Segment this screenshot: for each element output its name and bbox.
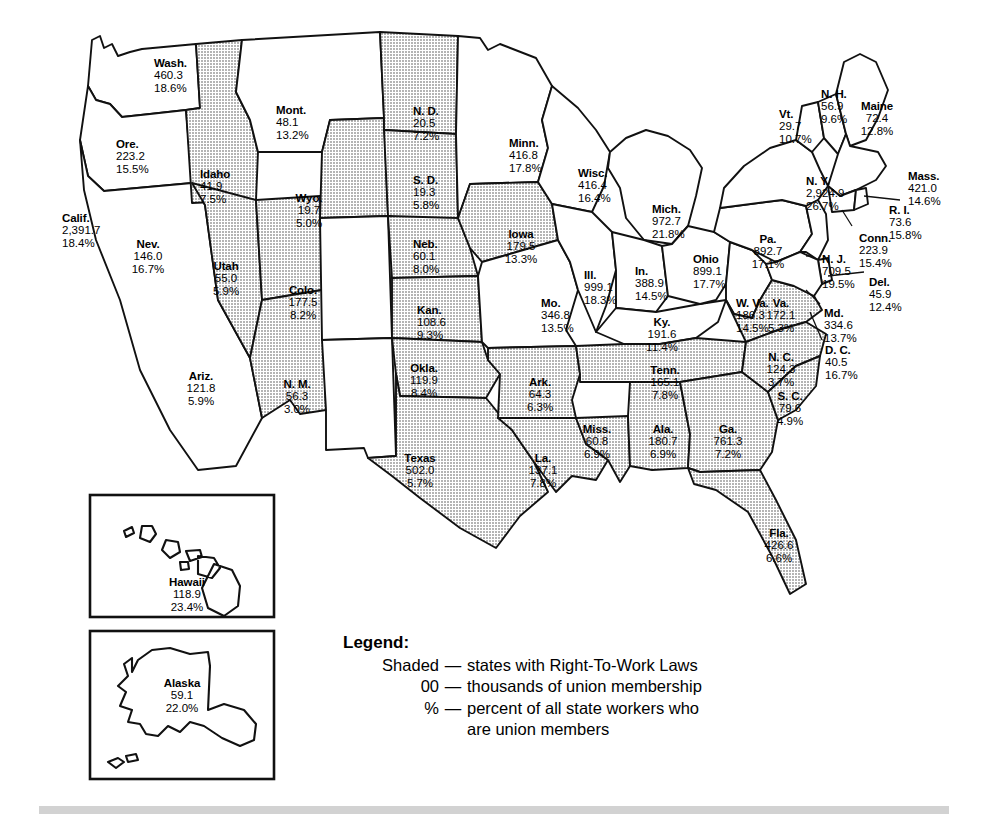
state-members-MT: 48.1 [276,116,309,128]
state-percent-DC: 16.7% [825,369,858,381]
state-label-NM: N. M.56.33.0% [284,378,311,415]
state-members-ID: 41.9 [200,180,230,192]
state-label-OH: Ohio899.117.7% [693,253,726,290]
state-members-NV: 146.0 [132,250,165,262]
state-label-TX: Texas502.05.7% [404,452,435,489]
state-percent-ID: 7.5% [200,193,230,205]
state-name-OK: Okla. [410,362,438,374]
state-percent-WA: 18.6% [154,82,187,94]
state-percent-MI: 21.8% [652,228,685,240]
state-members-TN: 165.1 [650,376,679,388]
state-name-UT: Utah [213,260,239,272]
state-name-MT: Mont. [276,104,309,116]
state-name-WV: W. Va. [736,297,769,309]
state-label-AL: Ala.180.76.9% [649,423,678,460]
state-name-MD: Md. [824,307,857,319]
state-name-DE: Del. [869,276,902,288]
state-percent-MT: 13.2% [276,129,309,141]
state-percent-SD: 5.8% [413,199,439,211]
state-name-NC: N. C. [767,351,796,363]
state-members-MN: 416.8 [509,149,542,161]
state-members-AK: 59.1 [164,689,200,701]
state-name-CA: Calif. [62,212,100,224]
state-name-WY: Wyo. [296,192,323,204]
state-members-MA: 421.0 [908,182,941,194]
state-label-CT: Conn.223.915.4% [859,232,892,269]
state-percent-DE: 12.4% [869,301,902,313]
state-name-MA: Mass. [908,170,941,182]
state-percent-NV: 16.7% [132,263,165,275]
state-label-KS: Kan.108.69.3% [417,304,446,341]
state-label-LA: La.137.17.8% [529,452,558,489]
state-shape-OK[interactable] [392,338,500,398]
legend-dash-percent: — [439,698,467,719]
state-percent-HI: 23.4% [169,601,205,613]
state-name-NV: Nev. [132,238,165,250]
state-members-MI: 972.7 [652,215,685,227]
state-name-NE: Neb. [413,238,439,250]
state-label-VT: Vt.29.710.7% [779,108,812,145]
state-label-SD: S. D.19.35.8% [413,174,439,211]
state-label-MS: Miss.60.86.9% [583,423,611,460]
state-percent-NY: 26.7% [806,200,844,212]
state-label-AK: Alaska59.122.0% [164,677,200,714]
callout-line-RI [864,196,900,200]
state-name-NJ: N. J. [822,253,855,265]
state-name-HI: Hawaii [169,576,205,588]
state-members-NJ: 709.5 [822,265,855,277]
state-members-NC: 124.3 [767,363,796,375]
state-name-ME: Maine [861,100,894,112]
state-percent-MO: 13.5% [541,322,574,334]
state-members-MO: 346.8 [541,309,574,321]
state-name-TN: Tenn. [650,364,679,376]
state-label-GA: Ga.761.37.2% [714,423,743,460]
state-percent-MN: 17.8% [509,162,542,174]
state-members-ME: 72.4 [861,112,894,124]
state-label-HI: Hawaii118.923.4% [169,576,205,613]
state-name-MS: Miss. [583,423,611,435]
state-name-MO: Mo. [541,297,574,309]
state-members-CO: 177.5 [289,296,318,308]
legend-row-thousands: 00 — thousands of union membership [343,676,763,697]
state-percent-FL: 6.6% [765,552,794,564]
state-label-CO: Colo.177.58.2% [289,284,318,321]
state-percent-AK: 22.0% [164,702,200,714]
legend-title: Legend: [343,633,763,653]
state-name-NY: N. Y. [806,175,844,187]
state-percent-GA: 7.2% [714,448,743,460]
state-percent-CT: 15.4% [859,257,892,269]
legend-dash-shaded: — [439,655,467,676]
state-shape-RI[interactable] [854,188,868,210]
state-members-MD: 334.6 [824,319,857,331]
state-members-IA: 179.5 [505,240,538,252]
state-shape-WY[interactable] [320,118,388,218]
state-members-HI: 118.9 [169,588,205,600]
state-members-UT: 55.0 [213,272,239,284]
state-percent-MS: 6.9% [583,448,611,460]
state-members-WY: 19.7 [296,204,323,216]
state-percent-OK: 8.4% [410,387,438,399]
state-percent-AL: 6.9% [649,448,678,460]
state-percent-RI: 15.8% [889,229,922,241]
state-name-MN: Minn. [509,137,542,149]
state-shape-CO[interactable] [320,216,392,340]
state-percent-AR: 6.3% [527,401,553,413]
state-name-DC: D. C. [825,344,858,356]
state-label-NJ: N. J.709.519.5% [822,253,855,290]
state-members-AR: 64.3 [527,388,553,400]
state-label-NH: N. H.56.99.6% [821,88,847,125]
state-label-ID: Idaho41.97.5% [200,168,230,205]
state-name-IA: Iowa [505,228,538,240]
state-percent-TN: 7.8% [650,389,679,401]
state-percent-WI: 16.4% [578,192,611,204]
state-label-IN: In.388.914.5% [635,265,668,302]
state-members-AL: 180.7 [649,435,678,447]
state-percent-MD: 13.7% [824,332,857,344]
state-members-NM: 56.3 [284,390,311,402]
state-shape-NM[interactable] [322,338,396,458]
union-membership-map: Wash.460.318.6%Ore.223.215.5%Calif.2,391… [0,0,986,826]
state-percent-KY: 11.4% [646,341,678,353]
state-name-AR: Ark. [527,376,553,388]
state-label-WV: W. Va.186.314.5% [736,297,769,334]
state-members-VA: 172.1 [767,309,796,321]
